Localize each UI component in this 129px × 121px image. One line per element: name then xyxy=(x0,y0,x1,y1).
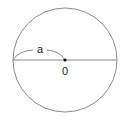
radius-brace-left xyxy=(13,50,33,60)
center-label: 0 xyxy=(62,65,68,77)
center-point xyxy=(63,58,66,61)
circle-diagram: a 0 xyxy=(0,0,129,121)
radius-label: a xyxy=(37,43,44,55)
radius-brace-right xyxy=(47,50,65,60)
